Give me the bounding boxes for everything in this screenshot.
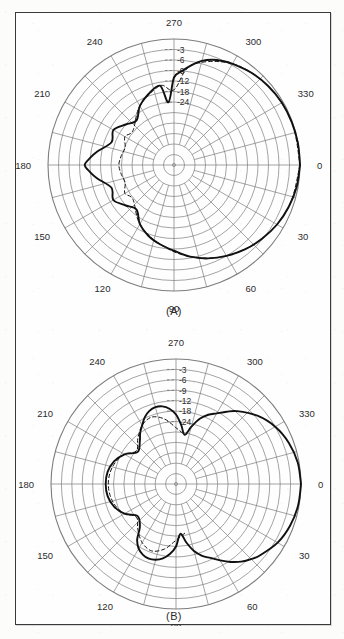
angle-tick-0: 0	[318, 479, 323, 490]
angle-tick-330: 330	[298, 88, 314, 99]
radial-tick-minus6: -6	[177, 55, 185, 65]
radial-tick-minus18: -18	[179, 406, 192, 416]
panel-b-caption: (B)	[16, 610, 332, 622]
angle-tick-180: 180	[16, 160, 31, 171]
radial-tick-minus6: -6	[179, 375, 187, 385]
angle-tick-270: 270	[168, 337, 184, 348]
panel-a-caption: (A)	[16, 305, 332, 317]
radial-tick-minus24: -24	[177, 97, 190, 107]
angle-tick-210: 210	[34, 88, 50, 99]
angle-tick-150: 150	[34, 231, 50, 242]
radial-tick-minus3: -3	[179, 365, 187, 375]
angle-tick-120: 120	[95, 283, 111, 294]
angle-tick-240: 240	[89, 356, 105, 367]
polar-chart-b: 0306090120150180210240270300330-3-6-9-12…	[16, 319, 332, 626]
angle-tick-60: 60	[246, 283, 257, 294]
angle-tick-30: 30	[298, 231, 309, 242]
angle-tick-150: 150	[37, 550, 53, 561]
angle-tick-330: 330	[299, 408, 315, 419]
radial-tick-minus3: -3	[177, 45, 185, 55]
angle-tick-300: 300	[247, 356, 263, 367]
angle-tick-240: 240	[87, 36, 103, 47]
figure-root: 0306090120150180210240270300330-3-6-9-12…	[0, 0, 344, 639]
polar-chart-a: 0306090120150180210240270300330-3-6-9-12…	[16, 13, 332, 319]
radial-tick-minus12: -12	[177, 76, 190, 86]
angle-tick-0: 0	[317, 160, 322, 171]
angle-tick-270: 270	[166, 17, 182, 28]
radial-tick-minus18: -18	[177, 87, 190, 97]
radial-tick-minus12: -12	[179, 396, 192, 406]
angle-tick-210: 210	[37, 408, 53, 419]
polar-plot-panel-a: 0306090120150180210240270300330-3-6-9-12…	[16, 13, 332, 319]
angle-tick-180: 180	[18, 479, 34, 490]
angle-tick-30: 30	[299, 550, 310, 561]
series-computed	[119, 61, 300, 258]
polar-plot-panel-b: 0306090120150180210240270300330-3-6-9-12…	[16, 319, 332, 626]
radial-tick-minus9: -9	[179, 386, 187, 396]
angle-tick-300: 300	[246, 36, 262, 47]
figure-frame: 0306090120150180210240270300330-3-6-9-12…	[15, 12, 331, 625]
